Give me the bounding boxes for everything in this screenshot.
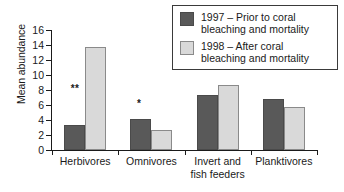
x-axis-category-label: Herbivores: [52, 155, 118, 168]
x-axis-category-label: Planktivores: [251, 155, 317, 168]
y-axis-tick-label: 12: [2, 55, 44, 65]
y-axis-tick-label: 16: [2, 25, 44, 35]
y-axis-tick: [46, 120, 51, 121]
bar: [64, 125, 85, 150]
bar: [218, 85, 239, 150]
bar: [130, 119, 151, 150]
legend-item: 1998 – After coral bleaching and mortali…: [180, 40, 331, 64]
bar-chart: Mean abundance 1614121086420 HerbivoresO…: [0, 0, 344, 192]
y-axis-tick: [46, 150, 51, 151]
y-axis-tick: [46, 45, 51, 46]
legend-swatch-1998: [180, 41, 194, 55]
bar-group: [130, 26, 172, 150]
x-axis-tick: [317, 150, 318, 155]
y-axis-tick: [46, 105, 51, 106]
legend-label-1998: 1998 – After coral bleaching and mortali…: [201, 40, 309, 64]
y-axis-tick-label: 4: [2, 115, 44, 125]
legend-label-1997: 1997 – Prior to coral bleaching and mort…: [201, 11, 309, 35]
bar: [151, 130, 172, 150]
y-axis-tick-label: 2: [2, 130, 44, 140]
y-axis-tick-label: 8: [2, 85, 44, 95]
bar: [197, 95, 218, 150]
y-axis-tick: [46, 60, 51, 61]
significance-marker: **: [71, 84, 80, 94]
significance-marker: *: [137, 99, 141, 109]
y-axis-tick-label: 0: [2, 145, 44, 155]
legend-swatch-1997: [180, 12, 194, 26]
y-axis-tick: [46, 30, 51, 31]
x-axis-category-label: Omnivores: [118, 155, 184, 168]
y-axis-tick: [46, 135, 51, 136]
y-axis-tick-label: 6: [2, 100, 44, 110]
y-axis-tick: [46, 90, 51, 91]
y-axis-tick-labels: 1614121086420: [0, 0, 44, 192]
bar: [263, 99, 284, 150]
bar: [85, 47, 106, 151]
legend: 1997 – Prior to coral bleaching and mort…: [172, 5, 338, 70]
bar: [284, 107, 305, 151]
y-axis-tick-label: 14: [2, 40, 44, 50]
y-axis-tick-label: 10: [2, 70, 44, 80]
x-axis-category-label: Invert and fish feeders: [185, 155, 251, 180]
legend-item: 1997 – Prior to coral bleaching and mort…: [180, 11, 331, 35]
y-axis-tick: [46, 75, 51, 76]
